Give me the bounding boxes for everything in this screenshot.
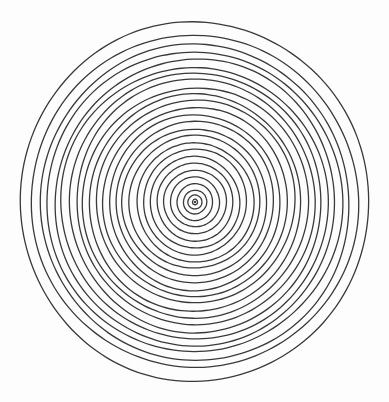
concentric-rings-diagram <box>0 0 389 402</box>
center-dot-mark <box>194 201 196 203</box>
figure-canvas <box>0 0 389 402</box>
center-dot <box>194 201 196 203</box>
